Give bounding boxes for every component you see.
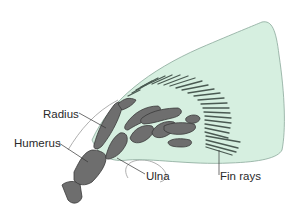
shoulder-girdle-bone [62, 181, 82, 203]
label-humerus: Humerus [14, 138, 61, 150]
radial-element-7 [168, 139, 192, 147]
humerus-leader-line [59, 143, 88, 162]
label-ulna: Ulna [146, 171, 170, 183]
radial-element-8 [186, 115, 200, 123]
radius-leader-line [79, 113, 106, 128]
label-fin-rays: Fin rays [220, 171, 261, 183]
label-radius: Radius [43, 109, 79, 121]
humerus-bone [74, 150, 106, 185]
